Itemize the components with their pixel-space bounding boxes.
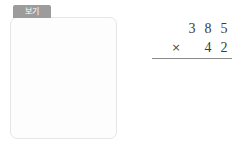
multiplicand-row: 3 8 5 <box>152 19 232 38</box>
example-tab: 보기 <box>13 5 51 18</box>
operation-rule-line <box>152 58 232 59</box>
digit-cell: 3 <box>184 19 200 38</box>
example-card <box>10 17 117 139</box>
blank-problem-calculation: 3 8 5 × 4 2 <box>152 19 232 60</box>
digit-cell: 2 <box>216 38 232 57</box>
digit-cell: 5 <box>216 19 232 38</box>
multiplication-operator-icon: × <box>168 38 184 57</box>
digit-cell: 8 <box>200 19 216 38</box>
multiplier-row: × 4 2 <box>152 38 232 57</box>
example-tab-label: 보기 <box>25 8 40 16</box>
digit-cell: 4 <box>200 38 216 57</box>
